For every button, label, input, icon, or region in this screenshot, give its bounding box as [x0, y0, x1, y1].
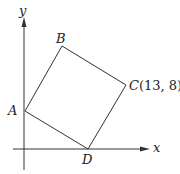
vertex-c-label: C(13, 8) — [129, 79, 180, 92]
square-abcd — [25, 46, 126, 149]
vertex-b-label: B — [56, 32, 66, 45]
y-axis-label: y — [19, 4, 26, 17]
x-axis-arrow-icon — [140, 147, 150, 152]
vertex-c-coords: (13, 8) — [139, 78, 180, 93]
x-axis-label: x — [153, 141, 160, 154]
vertex-a-label: A — [8, 104, 17, 117]
vertex-d-label: D — [82, 153, 92, 166]
diagram-canvas: y x A B C(13, 8) D — [0, 0, 180, 174]
vertex-c-letter: C — [129, 78, 139, 93]
y-axis-arrow-icon — [22, 17, 27, 27]
